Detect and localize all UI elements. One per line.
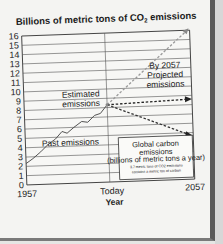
svg-text:15: 15 — [9, 40, 19, 50]
co2-chart: Billions of metric tons of CO2 emissions — [0, 0, 223, 244]
svg-text:16: 16 — [8, 31, 18, 41]
svg-text:6: 6 — [17, 124, 22, 134]
svg-text:3: 3 — [18, 152, 23, 162]
svg-text:11: 11 — [11, 78, 21, 88]
x-tick-2057: 2057 — [185, 182, 205, 193]
svg-text:14: 14 — [9, 50, 19, 60]
svg-text:7: 7 — [16, 115, 21, 125]
svg-text:1: 1 — [18, 171, 23, 181]
svg-text:13: 13 — [9, 59, 19, 69]
projected-label-2: emissions — [146, 78, 184, 89]
svg-text:8: 8 — [16, 106, 21, 116]
x-tick-today: Today — [100, 186, 125, 197]
svg-text:12: 12 — [10, 68, 20, 78]
x-tick-1957: 1957 — [17, 189, 37, 200]
past-emissions-label: Past emissions — [42, 136, 99, 148]
svg-text:10: 10 — [10, 87, 20, 97]
plot-area: 0 1 2 3 4 5 6 7 8 9 10 11 12 13 14 15 16 — [8, 25, 207, 211]
svg-text:2: 2 — [18, 161, 23, 171]
y-axis: 0 1 2 3 4 5 6 7 8 9 10 11 12 13 14 15 16 — [8, 31, 24, 190]
svg-text:9: 9 — [16, 96, 21, 106]
x-axis-title: Year — [105, 197, 124, 208]
svg-text:4: 4 — [17, 143, 22, 153]
chart-title: Billions of metric tons of CO2 emissions — [16, 10, 197, 28]
estimated-label-2: emissions — [62, 98, 100, 109]
svg-text:5: 5 — [17, 133, 22, 143]
legend-box: Global carbon emissions (billions of met… — [106, 135, 206, 180]
